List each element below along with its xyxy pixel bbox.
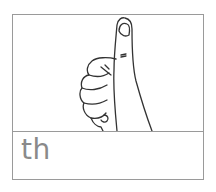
card-label: th <box>21 133 51 166</box>
picture-area <box>13 15 203 131</box>
card-divider <box>13 131 203 132</box>
flashcard: th <box>12 14 204 180</box>
thumbs-up-hand-icon <box>13 15 203 131</box>
